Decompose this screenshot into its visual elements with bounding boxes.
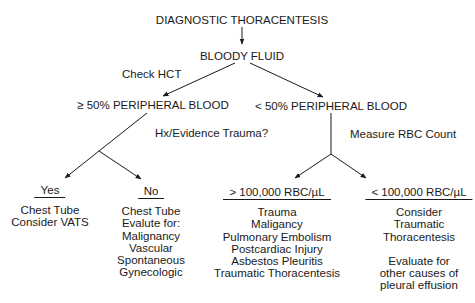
yes-line: Chest Tube [11,204,89,216]
high-rbc-line: Maligancy [214,218,340,230]
low-rbc-line: Consider [365,206,472,218]
node-low-rbc: < 100,000 RBC/µL Consider Traumatic Thor… [365,186,472,292]
edge-to-high-rbc [295,154,331,178]
no-heading: No [138,185,165,199]
node-high-rbc: > 100,000 RBC/µL Trauma Maligancy Pulmon… [214,186,340,279]
node-yes: Yes Chest Tube Consider VATS [11,184,89,229]
no-line: Gynecologic [117,266,185,278]
no-line: Evalute for: [117,217,185,229]
edge-label-measure-rbc: Measure RBC Count [350,128,456,140]
low-rbc-line: Traumatic [365,218,472,230]
yes-line: Consider VATS [11,216,89,228]
low-rbc-line: Evaluate for [365,255,472,267]
high-rbc-line: Pulmonary Embolism [214,231,340,243]
edge-to-yes [65,151,99,178]
edge-label-check-hct: Check HCT [122,68,181,80]
edge-to-no [99,151,141,179]
node-diagnostic-thoracentesis: DIAGNOSTIC THORACENTESIS [156,14,328,26]
yes-heading: Yes [35,184,66,198]
no-line: Chest Tube [117,205,185,217]
low-rbc-line: Thoracentesis [365,231,472,243]
node-bloody-fluid: BLOODY FLUID [200,50,284,62]
edge-to-low-rbc [331,154,366,178]
edge-bloody-to-low-hct [250,63,323,97]
high-rbc-line: Trauma [214,206,340,218]
edge-label-trauma-question: Hx/Evidence Trauma? [155,127,268,139]
low-rbc-line [365,243,472,255]
low-rbc-line: other causes of [365,267,472,279]
node-no: No Chest Tube Evalute for: Malignancy Va… [117,185,185,278]
high-rbc-heading: > 100,000 RBC/µL [223,186,330,200]
low-rbc-line: pleural effusion [365,279,472,291]
low-rbc-heading: < 100,000 RBC/µL [365,186,472,200]
high-rbc-line: Asbestos Pleuritis [214,255,340,267]
high-rbc-line: Traumatic Thoracentesis [214,267,340,279]
node-high-peripheral-blood: ≥ 50% PERIPHERAL BLOOD [77,99,229,111]
high-rbc-line: Postcardiac Injury [214,243,340,255]
edge-high-hct-stem [99,113,147,151]
node-low-peripheral-blood: < 50% PERIPHERAL BLOOD [255,100,407,112]
no-line: Malignancy [117,230,185,242]
no-line: Spontaneous [117,254,185,266]
no-line: Vascular [117,242,185,254]
